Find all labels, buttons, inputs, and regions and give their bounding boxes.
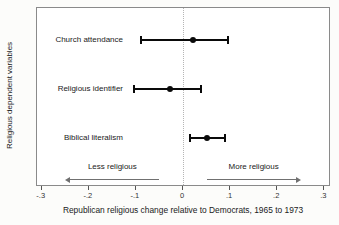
- x-tick-mark: [229, 186, 230, 190]
- ci-cap-low: [189, 134, 191, 142]
- arrow-head-left-icon: [65, 177, 70, 183]
- annotation-left: Less religious: [65, 162, 159, 171]
- x-tick-label: .2: [264, 191, 288, 200]
- x-tick-mark: [135, 186, 136, 190]
- y-axis-title: Religious dependent variables: [5, 31, 14, 161]
- ci-line: [141, 39, 228, 41]
- arrow-line-left: [69, 179, 159, 180]
- point-estimate-marker: [167, 86, 173, 92]
- category-label: Church attendance: [37, 35, 123, 45]
- ci-cap-low: [133, 85, 135, 93]
- coefficient-plot-figure: Religious dependent variables Church att…: [0, 0, 339, 225]
- ci-cap-high: [227, 36, 229, 44]
- x-tick-label: 0: [170, 191, 194, 200]
- arrow-head-right-icon: [296, 177, 301, 183]
- point-estimate-marker: [190, 37, 196, 43]
- x-tick-label: -.2: [76, 191, 100, 200]
- arrow-line-right: [207, 179, 297, 180]
- x-tick-mark: [323, 186, 324, 190]
- x-tick-label: .3: [311, 191, 335, 200]
- plot-area: Church attendanceReligious identifierBib…: [36, 7, 330, 186]
- annotation-right: More religious: [207, 162, 301, 171]
- x-tick-mark: [41, 186, 42, 190]
- x-tick-mark: [276, 186, 277, 190]
- ci-cap-low: [140, 36, 142, 44]
- zero-reference-line: [183, 8, 184, 185]
- category-label: Biblical literalism: [37, 133, 123, 143]
- x-tick-label: -.1: [123, 191, 147, 200]
- x-tick-label: -.3: [29, 191, 53, 200]
- category-label: Religious identifier: [37, 84, 123, 94]
- x-axis-title: Republican religious change relative to …: [36, 205, 330, 215]
- point-estimate-marker: [204, 135, 210, 141]
- x-tick-mark: [182, 186, 183, 190]
- x-tick-label: .1: [217, 191, 241, 200]
- ci-cap-high: [224, 134, 226, 142]
- ci-cap-high: [200, 85, 202, 93]
- x-tick-mark: [88, 186, 89, 190]
